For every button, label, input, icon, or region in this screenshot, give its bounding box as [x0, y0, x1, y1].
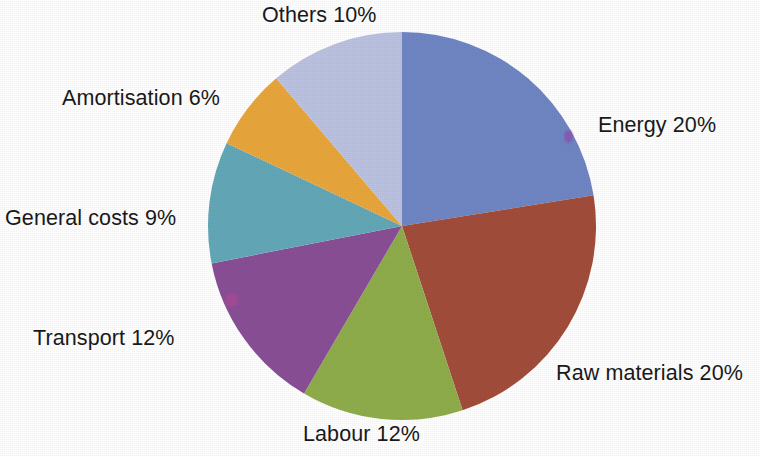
pie-label-raw-materials: Raw materials 20%	[556, 361, 743, 386]
pie-chart-figure: Others 10% Energy 20% Raw materials 20% …	[0, 0, 760, 456]
pie-label-general-costs: General costs 9%	[5, 206, 176, 231]
pie-label-transport: Transport 12%	[33, 326, 175, 351]
pie-label-energy: Energy 20%	[598, 113, 716, 138]
pie-slice-energy	[402, 32, 594, 226]
pie-label-others: Others 10%	[262, 3, 377, 28]
pie-slices-group	[208, 32, 596, 420]
pie-label-labour: Labour 12%	[303, 422, 420, 447]
pie-label-amortisation: Amortisation 6%	[62, 86, 220, 111]
